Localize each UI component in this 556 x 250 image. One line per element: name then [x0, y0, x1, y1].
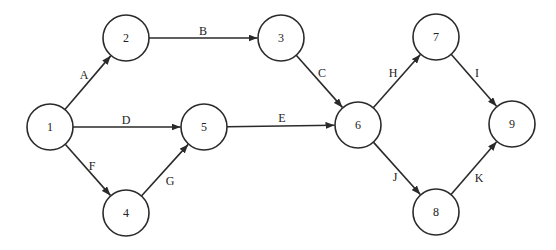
arrow-icon	[141, 144, 188, 196]
node-label: 3	[278, 31, 284, 45]
arrow-icon	[65, 56, 111, 110]
edge-a: A	[65, 56, 111, 110]
edge-label: G	[166, 174, 175, 188]
node-1: 1	[27, 104, 73, 150]
edge-label: J	[393, 170, 398, 184]
edge-h: H	[373, 55, 420, 108]
edge-i: I	[451, 54, 496, 106]
arrow-icon	[451, 142, 497, 195]
node-label: 9	[509, 117, 515, 131]
edge-e: E	[227, 111, 335, 127]
edge-label: A	[80, 68, 89, 82]
edge-d: D	[73, 113, 181, 127]
edge-label: H	[389, 66, 398, 80]
node-label: 8	[433, 205, 439, 219]
edge-f: F	[65, 144, 110, 195]
network-diagram: ABCDEFGHIJK 123456789	[0, 0, 556, 250]
arrow-icon	[373, 55, 420, 108]
edge-label: F	[89, 159, 96, 173]
node-4: 4	[103, 190, 149, 236]
node-2: 2	[103, 15, 149, 61]
arrow-icon	[451, 54, 496, 106]
node-label: 7	[433, 30, 439, 44]
nodes-layer: 123456789	[27, 14, 535, 236]
arrow-icon	[373, 142, 420, 194]
arrow-icon	[227, 125, 335, 126]
node-label: 4	[123, 206, 129, 220]
node-label: 1	[47, 120, 53, 134]
edge-label: C	[318, 66, 326, 80]
edge-label: I	[475, 66, 479, 80]
node-7: 7	[413, 14, 459, 60]
edge-label: K	[475, 171, 484, 185]
arrow-icon	[296, 55, 342, 107]
node-label: 6	[355, 118, 361, 132]
node-3: 3	[258, 15, 304, 61]
node-9: 9	[489, 101, 535, 147]
edge-label: B	[199, 24, 207, 38]
node-label: 2	[123, 31, 129, 45]
node-6: 6	[335, 102, 381, 148]
edge-label: D	[122, 113, 131, 127]
edge-g: G	[141, 144, 188, 196]
node-label: 5	[201, 120, 207, 134]
node-5: 5	[181, 104, 227, 150]
edge-b: B	[149, 24, 258, 38]
edge-label: E	[278, 111, 285, 125]
node-8: 8	[413, 189, 459, 235]
edge-k: K	[451, 142, 497, 195]
edge-j: J	[373, 142, 420, 194]
edge-c: C	[296, 55, 342, 107]
